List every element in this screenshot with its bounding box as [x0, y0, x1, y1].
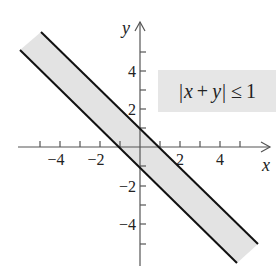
plus-sign: +: [193, 80, 212, 103]
y-tick-label-4: 4: [128, 63, 136, 80]
leq-sign: ≤: [227, 80, 246, 103]
x-tick-label-neg4: −4: [47, 151, 64, 168]
inequality-label: | x + y | ≤ 1: [158, 70, 276, 112]
y-tick-label-neg2: −2: [119, 178, 136, 195]
x-axis-label: x: [261, 155, 270, 175]
boundary-line-upper: [41, 32, 258, 244]
x-tick-label-neg2: −2: [87, 151, 104, 168]
rhs-value: 1: [246, 80, 256, 103]
var-y: y: [212, 80, 221, 103]
var-x: x: [184, 80, 193, 103]
x-tick-label-4: 4: [216, 151, 224, 168]
region-graph: −4 −2 2 4 x 4 2 −2 −4 y: [0, 0, 276, 266]
y-axis-label: y: [120, 18, 130, 38]
y-tick-label-neg4: −4: [119, 216, 136, 233]
y-tick-label-2: 2: [128, 101, 136, 118]
